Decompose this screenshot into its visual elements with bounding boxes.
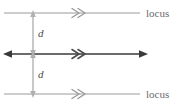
locus-diagram-figure: locus locus bbox=[0, 0, 180, 107]
lower-distance-label: d bbox=[38, 68, 44, 80]
top-locus-label: locus bbox=[146, 7, 169, 19]
bottom-locus-label: locus bbox=[146, 88, 169, 100]
upper-distance-label: d bbox=[38, 27, 44, 39]
diagram-canvas: locus locus bbox=[0, 0, 180, 107]
